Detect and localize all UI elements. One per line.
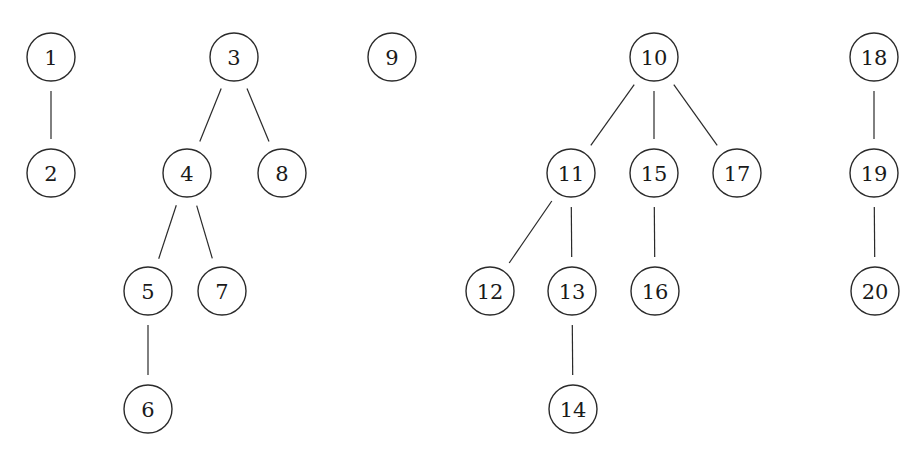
node-label: 16	[642, 280, 669, 304]
edge-3-4	[200, 89, 221, 142]
node-label: 18	[861, 46, 888, 70]
node-14: 14	[549, 385, 597, 433]
node-label: 6	[141, 398, 154, 422]
node-15: 15	[630, 149, 678, 197]
node-10: 10	[630, 33, 678, 81]
node-label: 2	[44, 162, 57, 186]
node-11: 11	[547, 149, 595, 197]
node-6: 6	[124, 385, 172, 433]
node-5: 5	[124, 267, 172, 315]
edge-10-11	[591, 85, 634, 146]
node-4: 4	[163, 149, 211, 197]
node-label: 14	[560, 398, 587, 422]
node-label: 3	[227, 46, 240, 70]
node-19: 19	[850, 149, 898, 197]
node-18: 18	[850, 33, 898, 81]
node-label: 13	[559, 280, 586, 304]
node-label: 17	[724, 162, 751, 186]
forest-diagram: 1234857691011151712131614181920	[0, 0, 921, 458]
node-label: 19	[861, 162, 888, 186]
nodes-layer: 1234857691011151712131614181920	[27, 33, 899, 433]
node-label: 7	[215, 280, 228, 304]
edges-layer	[51, 85, 875, 375]
node-label: 10	[641, 46, 668, 70]
node-9: 9	[368, 33, 416, 81]
node-7: 7	[198, 267, 246, 315]
node-17: 17	[713, 149, 761, 197]
edge-3-8	[247, 88, 269, 141]
node-3: 3	[210, 33, 258, 81]
node-8: 8	[258, 149, 306, 197]
node-1: 1	[27, 33, 75, 81]
node-label: 1	[44, 46, 57, 70]
node-13: 13	[548, 267, 596, 315]
node-label: 20	[862, 280, 889, 304]
edge-4-7	[197, 206, 213, 259]
node-2: 2	[27, 149, 75, 197]
edge-4-5	[159, 205, 177, 258]
node-label: 15	[641, 162, 668, 186]
node-label: 12	[477, 280, 504, 304]
node-12: 12	[466, 267, 514, 315]
node-label: 4	[180, 162, 193, 186]
node-label: 11	[558, 162, 585, 186]
node-label: 8	[275, 162, 288, 186]
node-label: 5	[141, 280, 154, 304]
node-16: 16	[631, 267, 679, 315]
node-20: 20	[851, 267, 899, 315]
edge-11-12	[509, 201, 552, 263]
edge-10-17	[674, 85, 717, 146]
node-label: 9	[385, 46, 398, 70]
